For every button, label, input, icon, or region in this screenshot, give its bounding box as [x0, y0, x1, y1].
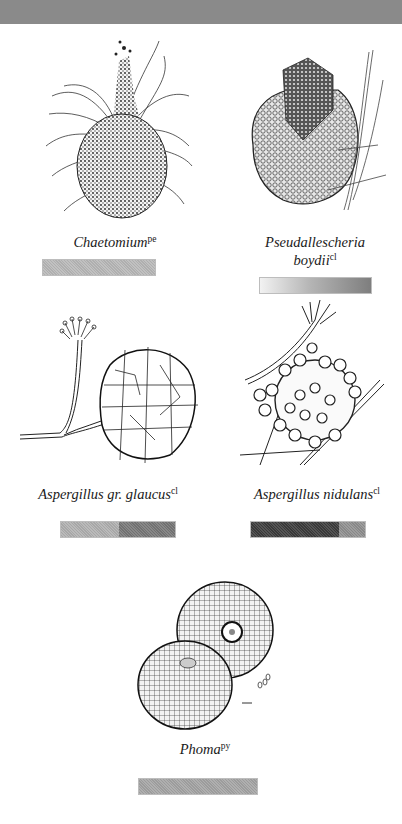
specimen-caption-aspergillus-glaucus: Aspergillus gr. glaucuscl — [18, 485, 198, 503]
specimen-superscript: cl — [373, 486, 380, 496]
specimen-superscript: cl — [171, 486, 178, 496]
specimen-superscript: py — [221, 741, 231, 751]
specimen-caption-phoma: Phomapy — [130, 740, 280, 758]
color-bar-phoma — [138, 778, 258, 795]
specimen-name: Aspergillus nidulans — [254, 486, 373, 502]
specimen-caption-pseudallescheria: Pseudallescheria boydiicl — [240, 233, 390, 269]
color-segment — [251, 522, 339, 537]
color-bar-aspergillus-nidulans — [250, 521, 366, 538]
color-bar-pseudallescheria — [259, 277, 372, 294]
pseudallescheria-cleistothecium-illustration — [248, 50, 388, 215]
header-band — [0, 0, 402, 24]
specimen-name: Chaetomium — [73, 234, 147, 250]
specimen-superscript: pe — [148, 234, 157, 244]
specimen-name: Phoma — [180, 741, 221, 757]
chaetomium-perithecium-illustration — [44, 36, 194, 226]
color-segment — [139, 779, 257, 794]
color-segment — [61, 522, 119, 537]
color-segment — [43, 260, 155, 275]
specimen-name-line2: boydii — [293, 252, 329, 268]
specimen-name: Aspergillus gr. glaucus — [38, 486, 171, 502]
aspergillus-glaucus-cleistothecium-illustration — [20, 315, 200, 465]
color-bar-aspergillus-glaucus — [60, 521, 176, 538]
aspergillus-nidulans-cleistothecium-illustration — [240, 300, 400, 470]
phoma-pycnidium-illustration — [130, 565, 280, 735]
specimen-name-line1: Pseudallescheria — [240, 233, 390, 251]
color-segment — [339, 522, 365, 537]
specimen-caption-chaetomium: Chaetomiumpe — [40, 233, 190, 251]
specimen-superscript: cl — [330, 252, 337, 262]
specimen-caption-aspergillus-nidulans: Aspergillus nidulanscl — [232, 485, 402, 503]
color-segment — [119, 522, 175, 537]
color-bar-chaetomium — [42, 259, 156, 276]
